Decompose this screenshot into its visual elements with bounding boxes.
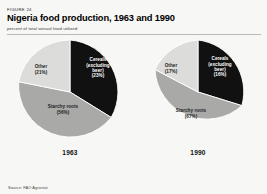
source-note: Source: FAO Agrostat xyxy=(8,185,48,190)
pie-chart-1963: Cereals (excluding beer) (23%) Other (21… xyxy=(11,36,129,156)
figure-number: FIGURE 24 xyxy=(7,7,261,12)
pie-graphic-1963: Cereals (excluding beer) (23%) Other (21… xyxy=(14,36,126,148)
pie-svg-1963 xyxy=(14,36,126,148)
pie-graphic-1990: Cereals (excluding beer) (16%) Other (17… xyxy=(142,36,254,148)
figure-subtitle: percent of total annual food utilized xyxy=(7,26,261,31)
pie-chart-1990: Cereals (excluding beer) (16%) Other (17… xyxy=(139,36,257,156)
pie-svg-1990 xyxy=(142,36,254,148)
figure-title: Nigeria food production, 1963 and 1990 xyxy=(7,13,261,24)
pie-year-1963: 1963 xyxy=(62,149,77,156)
figure-container: FIGURE 24 Nigeria food production, 1963 … xyxy=(0,0,267,194)
figure-header: FIGURE 24 Nigeria food production, 1963 … xyxy=(7,7,261,31)
pie-year-1990: 1990 xyxy=(190,149,205,156)
charts-row: Cereals (excluding beer) (23%) Other (21… xyxy=(7,34,261,156)
